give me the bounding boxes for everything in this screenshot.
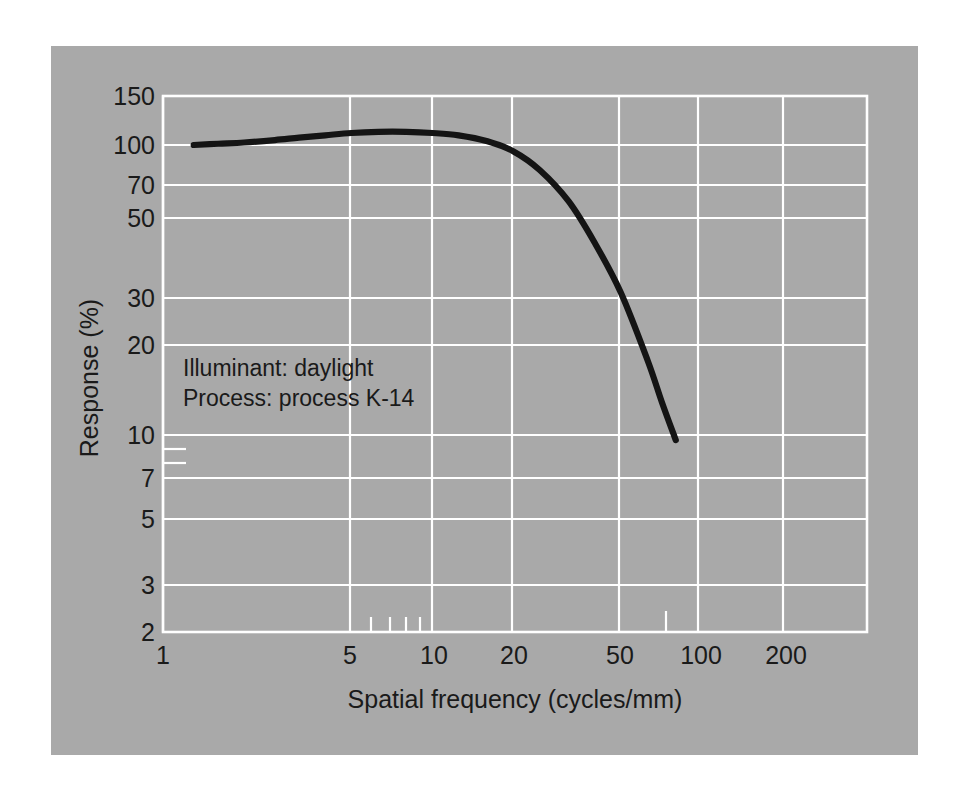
ytick-label-3: 3 xyxy=(141,571,155,599)
xtick-label-20: 20 xyxy=(500,641,528,669)
y-axis-tick-labels: 150 100 70 50 30 20 10 7 5 3 2 xyxy=(113,82,155,646)
x-axis-minor-ticks xyxy=(371,611,666,632)
y-axis-minor-ticks xyxy=(163,449,186,463)
xtick-label-50: 50 xyxy=(606,641,634,669)
ytick-label-50: 50 xyxy=(127,204,155,232)
xtick-label-200: 200 xyxy=(765,641,807,669)
ytick-label-10: 10 xyxy=(127,421,155,449)
ytick-label-30: 30 xyxy=(127,284,155,312)
xtick-label-1: 1 xyxy=(156,641,170,669)
annotation-line-illuminant: Illuminant: daylight xyxy=(183,355,374,381)
xtick-label-10: 10 xyxy=(420,641,448,669)
ytick-label-150: 150 xyxy=(113,82,155,110)
x-axis-tick-labels: 1 5 10 20 50 100 200 xyxy=(156,641,807,669)
ytick-label-100: 100 xyxy=(113,131,155,159)
annotation-line-process: Process: process K-14 xyxy=(183,385,415,411)
ytick-label-5: 5 xyxy=(141,505,155,533)
plot-annotation-block: Illuminant: daylight Process: process K-… xyxy=(183,355,415,411)
xtick-label-5: 5 xyxy=(343,641,357,669)
figure-root: 150 100 70 50 30 20 10 7 5 3 2 1 5 10 20… xyxy=(0,0,964,804)
ytick-label-20: 20 xyxy=(127,331,155,359)
chart-canvas: 150 100 70 50 30 20 10 7 5 3 2 1 5 10 20… xyxy=(0,0,964,804)
x-axis-title: Spatial frequency (cycles/mm) xyxy=(348,685,683,713)
xtick-label-100: 100 xyxy=(680,641,722,669)
ytick-label-7: 7 xyxy=(141,464,155,492)
y-axis-title: Response (%) xyxy=(75,299,103,457)
ytick-label-70: 70 xyxy=(127,171,155,199)
ytick-label-2: 2 xyxy=(141,618,155,646)
